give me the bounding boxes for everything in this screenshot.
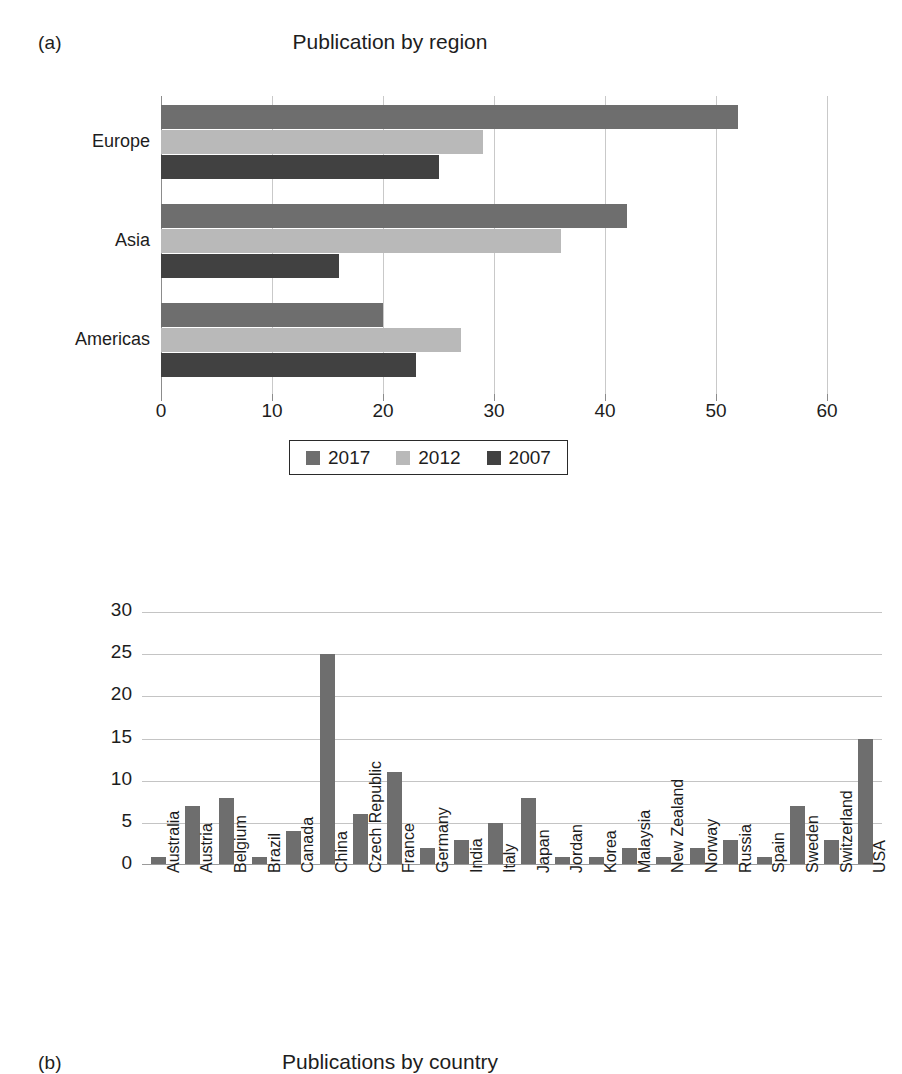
chart-a-bar xyxy=(161,229,561,253)
chart-b-category-label: New Zealand xyxy=(669,779,687,873)
chart-a-legend: 201720122007 xyxy=(289,440,568,475)
legend-swatch-icon xyxy=(396,451,410,465)
chart-b-tick-label: 0 xyxy=(88,852,132,874)
chart-b-gridline xyxy=(142,823,882,824)
chart-a-bar xyxy=(161,328,461,352)
chart-b-tick-label: 25 xyxy=(88,641,132,663)
chart-a-bar-group xyxy=(161,204,827,278)
chart-a-legend-entry: 2007 xyxy=(487,448,551,467)
chart-a-bar xyxy=(161,303,383,327)
chart-b-gridline xyxy=(142,696,882,697)
chart-a-bar xyxy=(161,130,483,154)
chart-b-category-label: Italy xyxy=(501,844,519,873)
chart-b-gridline xyxy=(142,739,882,740)
panel-b-publications-by-country: (b) Publications by country 051015202530… xyxy=(0,500,902,1067)
chart-a-bar-group xyxy=(161,303,827,377)
chart-a-category-label: Europe xyxy=(0,131,150,152)
chart-b-category-label: Canada xyxy=(299,817,317,873)
chart-b-category-label: Spain xyxy=(770,832,788,873)
chart-a-tick-label: 40 xyxy=(575,400,635,422)
chart-a-gridline xyxy=(827,96,828,394)
chart-b-category-label: Japan xyxy=(535,829,553,873)
chart-a-tick-label: 20 xyxy=(353,400,413,422)
chart-b-tick-label: 10 xyxy=(88,768,132,790)
chart-b-bar xyxy=(824,840,839,865)
chart-b-bar xyxy=(723,840,738,865)
chart-b-category-label: Czech Republic xyxy=(367,761,385,873)
chart-b-category-label: Russia xyxy=(737,824,755,873)
legend-swatch-icon xyxy=(487,451,501,465)
chart-b-category-label: India xyxy=(468,838,486,873)
chart-b-category-label: Sweden xyxy=(804,815,822,873)
chart-a-legend-label: 2017 xyxy=(328,448,370,467)
chart-a-bar-group xyxy=(161,105,827,179)
chart-a-tick-label: 0 xyxy=(131,400,191,422)
chart-a-bar xyxy=(161,353,416,377)
chart-a-bar xyxy=(161,155,439,179)
chart-b-category-label: Korea xyxy=(602,830,620,873)
chart-a-category-label: Asia xyxy=(0,230,150,251)
chart-b-category-label: Brazil xyxy=(266,833,284,873)
chart-a-plot-area xyxy=(161,96,827,394)
chart-a-legend-label: 2007 xyxy=(509,448,551,467)
chart-a-tick-label: 10 xyxy=(242,400,302,422)
chart-b-bar xyxy=(454,840,469,865)
chart-b-category-label: Germany xyxy=(434,807,452,873)
chart-a-bar xyxy=(161,254,339,278)
chart-a-title: Publication by region xyxy=(0,30,780,54)
chart-b-gridline xyxy=(142,612,882,613)
chart-b-category-label: China xyxy=(333,831,351,873)
chart-b-category-label: Malaysia xyxy=(636,810,654,873)
panel-a-publication-by-region: (a) Publication by region EuropeAsiaAmer… xyxy=(0,0,902,500)
chart-a-tick-label: 60 xyxy=(797,400,857,422)
chart-a-legend-entry: 2012 xyxy=(396,448,460,467)
chart-b-category-label: Norway xyxy=(703,819,721,873)
chart-b-gridline xyxy=(142,654,882,655)
chart-b-category-label: Australia xyxy=(165,811,183,873)
chart-a-bar xyxy=(161,105,738,129)
chart-b-tick-label: 5 xyxy=(88,810,132,832)
chart-a-legend-entry: 2017 xyxy=(306,448,370,467)
chart-b-gridline xyxy=(142,781,882,782)
chart-b-category-label: Belgium xyxy=(232,815,250,873)
chart-b-tick-label: 30 xyxy=(88,599,132,621)
chart-b-category-label: Austria xyxy=(198,823,216,873)
chart-a-legend-label: 2012 xyxy=(418,448,460,467)
chart-a-bar xyxy=(161,204,627,228)
chart-a-category-label: Americas xyxy=(0,329,150,350)
chart-b-title: Publications by country xyxy=(0,1050,780,1074)
chart-a-tick-label: 50 xyxy=(686,400,746,422)
chart-b-category-label: USA xyxy=(871,840,889,873)
legend-swatch-icon xyxy=(306,451,320,465)
chart-b-category-label: Jordan xyxy=(568,824,586,873)
chart-b-category-label: Switzerland xyxy=(838,790,856,873)
chart-b-tick-label: 15 xyxy=(88,726,132,748)
chart-b-tick-label: 20 xyxy=(88,683,132,705)
chart-b-category-label: France xyxy=(400,823,418,873)
chart-b-bar xyxy=(622,848,637,865)
chart-b-bar xyxy=(353,814,368,865)
chart-b-plot-area xyxy=(142,612,882,865)
chart-a-tick-label: 30 xyxy=(464,400,524,422)
